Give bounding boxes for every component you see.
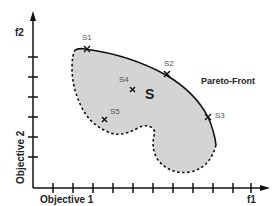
x-axis-arrow-icon (260, 185, 270, 191)
pareto-diagram: f2 Objective 2 Objective 1 f1 S Pareto-F… (0, 0, 276, 206)
pareto-front-label: Pareto-Front (201, 76, 255, 86)
point-label-s5: S5 (110, 107, 120, 116)
point-label-s2: S2 (164, 59, 174, 68)
point-label-s1: S1 (82, 33, 92, 42)
region-label: S (145, 86, 154, 102)
feasible-region (72, 49, 216, 173)
point-label-s3: S3 (215, 111, 225, 120)
y-axis-arrow-icon (30, 11, 36, 21)
x-axis-symbol: f1 (247, 194, 256, 205)
x-axis-label: Objective 1 (40, 194, 93, 205)
point-label-s4: S4 (119, 75, 129, 84)
y-axis-symbol: f2 (15, 27, 24, 38)
diagram-canvas (0, 0, 276, 206)
y-axis-label: Objective 2 (15, 131, 26, 184)
